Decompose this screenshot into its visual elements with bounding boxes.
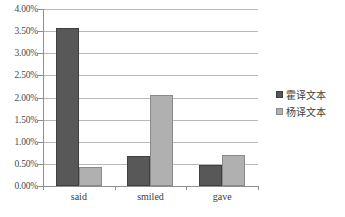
x-axis-tick-mark: [115, 186, 116, 190]
legend-swatch-icon: [276, 108, 283, 115]
y-axis-tick-mark: [38, 142, 43, 143]
y-axis-tick-label: 1.50%: [14, 115, 38, 125]
bars-layer: [43, 9, 258, 186]
bar-group: [115, 9, 187, 186]
y-axis-tick-label: 2.00%: [14, 93, 38, 103]
y-axis-tick-label: 0.00%: [14, 181, 38, 191]
legend-label: 杨译文本: [286, 104, 326, 119]
bar-chart: 0.00%0.50%1.00%1.50%2.00%2.50%3.00%3.50%…: [0, 0, 345, 217]
y-axis-tick-label: 1.00%: [14, 137, 38, 147]
plot-wrapper: 0.00%0.50%1.00%1.50%2.00%2.50%3.00%3.50%…: [0, 0, 272, 217]
legend-item[interactable]: 杨译文本: [276, 103, 345, 120]
bar[interactable]: [127, 156, 150, 186]
bar[interactable]: [199, 165, 222, 186]
x-axis-tick-label: said: [71, 191, 87, 202]
y-axis-tick-label: 0.50%: [14, 159, 38, 169]
y-axis-tick-label: 4.00%: [14, 4, 38, 14]
x-axis-tick-mark: [258, 186, 259, 190]
bar[interactable]: [222, 155, 245, 186]
y-axis-tick-mark: [38, 75, 43, 76]
y-axis-tick-mark: [38, 98, 43, 99]
legend-label: 霍译文本: [286, 87, 326, 102]
y-axis-tick-label: 2.50%: [14, 70, 38, 80]
x-axis-baseline: [43, 186, 258, 187]
y-axis-tick-label: 3.50%: [14, 26, 38, 36]
y-axis-tick-mark: [38, 120, 43, 121]
chart-legend: 霍译文本杨译文本: [276, 86, 345, 120]
y-axis-tick-label: 3.00%: [14, 48, 38, 58]
y-axis-labels: 0.00%0.50%1.00%1.50%2.00%2.50%3.00%3.50%…: [0, 9, 40, 186]
x-axis-labels: saidsmiledgave: [43, 191, 258, 211]
y-axis-tick-mark: [38, 53, 43, 54]
y-axis-tick-mark: [38, 31, 43, 32]
y-axis-tick-mark: [38, 9, 43, 10]
x-axis-tick-label: gave: [213, 191, 232, 202]
bar[interactable]: [79, 167, 102, 186]
legend-swatch-icon: [276, 91, 283, 98]
y-axis-tick-mark: [38, 164, 43, 165]
bar[interactable]: [56, 28, 79, 186]
bar-group: [186, 9, 258, 186]
x-axis-tick-mark: [186, 186, 187, 190]
bar[interactable]: [150, 95, 173, 186]
x-axis-tick-label: smiled: [137, 191, 164, 202]
x-axis-tick-mark: [43, 186, 44, 190]
bar-group: [43, 9, 115, 186]
legend-item[interactable]: 霍译文本: [276, 86, 345, 103]
